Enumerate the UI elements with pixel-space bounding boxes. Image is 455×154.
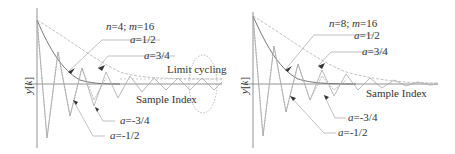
label-a-neg-1-2: a=-1/2 [338, 127, 367, 138]
arrowhead-icon [318, 63, 325, 69]
x-axis-label: Sample Index [366, 88, 427, 99]
panel-title: n=8; m=16 [329, 18, 377, 29]
arrowhead-icon [324, 95, 329, 100]
x-axis-label: Sample Index [136, 94, 197, 105]
y-axis-label: y[k] [238, 77, 250, 94]
label-a-1-2: a=1/2 [130, 34, 156, 45]
curve-a-neg-1-2 [253, 16, 346, 136]
panel-title: n=4; m=16 [106, 21, 154, 32]
arrowhead-icon [98, 65, 105, 71]
label-a-neg-1-2: a=-1/2 [110, 130, 139, 141]
limit-cycling-label: Limit cycling [167, 64, 227, 75]
label-a-neg-3-4: a=-3/4 [348, 112, 377, 123]
right-plot-panel: n=8; m=16 a=1/2 a=3/4 Sample Index a=-3/… [226, 0, 455, 154]
curve-a-neg-1-2 [37, 20, 106, 138]
label-a-neg-3-4: a=-3/4 [120, 115, 149, 126]
label-a-3-4: a=3/4 [362, 46, 388, 57]
arrowhead-icon [290, 96, 296, 101]
left-plot-panel: n=4; m=16 a=1/2 a=3/4 Limit cycling Samp… [0, 0, 228, 154]
arrowhead-icon [95, 107, 99, 112]
label-a-3-4: a=3/4 [144, 50, 170, 61]
y-axis-label: y[k] [22, 77, 34, 94]
leader-a-neg-1-2 [290, 96, 336, 133]
leader-a-neg-1-2 [73, 100, 105, 136]
label-a-1-2: a=1/2 [354, 30, 380, 41]
